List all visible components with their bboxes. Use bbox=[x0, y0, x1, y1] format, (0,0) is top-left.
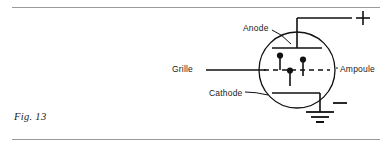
ground-symbol-icon bbox=[306, 112, 334, 122]
cathode-leader-line bbox=[245, 92, 268, 95]
label-ampoule: Ampoule bbox=[340, 64, 375, 74]
tube-schematic-drawing bbox=[0, 0, 392, 146]
label-cathode: Cathode bbox=[209, 88, 243, 98]
electron-dot-icon bbox=[277, 52, 283, 70]
positive-terminal-icon bbox=[356, 11, 370, 25]
figure-caption: Fig. 13 bbox=[14, 111, 46, 122]
electron-dot-icon bbox=[300, 56, 306, 76]
label-anode: Anode bbox=[243, 23, 269, 33]
electron-dot-icon bbox=[287, 67, 293, 86]
anode-leader-line bbox=[272, 30, 291, 44]
figure-page: Anode Grille Cathode Ampoule Fig. 13 bbox=[0, 0, 392, 146]
label-grille: Grille bbox=[172, 64, 193, 74]
